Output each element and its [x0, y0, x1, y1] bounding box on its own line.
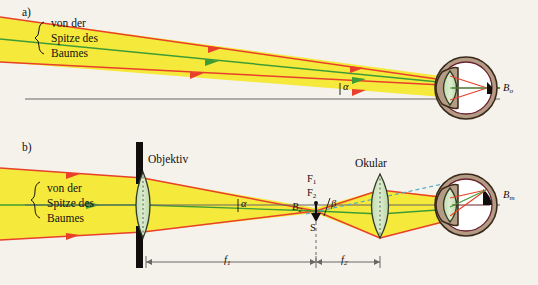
eyepiece-label: Okular [355, 157, 387, 169]
panel-a-source-line-1: von der [51, 17, 86, 29]
focal-point-f2-label: F2 [307, 187, 316, 200]
panel-b-source-line-3: Baumes [47, 212, 84, 224]
focal-length-f2-label: f2 [341, 254, 347, 267]
panel-a-tag: a) [22, 6, 31, 18]
focal-point-f1-label: F1 [307, 173, 316, 186]
screen-label-s: S [310, 222, 316, 233]
focal-length-f1-label: f1 [224, 254, 230, 267]
panel-b-tag: b) [22, 141, 32, 153]
objective-label: Objektiv [148, 153, 188, 165]
panel-b-angle-beta: β [331, 198, 336, 209]
panel-b-image-label-bm: Bm [503, 189, 515, 202]
panel-b-source-line-1: von der [47, 182, 82, 194]
focal-point-dot [314, 201, 318, 205]
panel-a-angle-alpha: α [343, 81, 349, 92]
panel-a-source-line-3: Baumes [51, 47, 88, 59]
optics-figure: a) von der Spitze des Baumes α Bo b) von… [0, 0, 538, 285]
panel-separator [0, 133, 538, 141]
panel-b-angle-alpha: α [241, 198, 247, 209]
panel-a-source-line-2: Spitze des [51, 32, 98, 44]
panel-a-image-label-bo: Bo [503, 82, 513, 95]
panel-b-source-line-2: Spitze des [47, 197, 94, 209]
intermediate-image-label-b2: B2 [292, 201, 302, 214]
